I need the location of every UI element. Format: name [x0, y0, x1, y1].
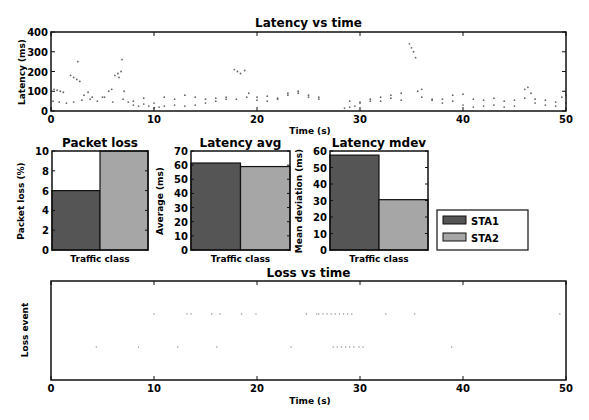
data-point	[442, 102, 444, 104]
data-point	[77, 61, 79, 63]
x-axis-label: Traffic class	[70, 254, 129, 264]
data-point	[87, 91, 89, 93]
bar-sta2	[241, 167, 291, 250]
data-point	[561, 96, 563, 98]
y-tick-label: 0	[41, 106, 48, 117]
loss-event-point	[339, 313, 340, 314]
x-tick-label: 10	[147, 114, 161, 125]
data-point	[409, 43, 411, 45]
data-point	[462, 104, 464, 106]
x-tick-label: 50	[559, 114, 573, 125]
data-point	[266, 100, 268, 102]
x-tick-label: 20	[250, 383, 264, 394]
data-point	[308, 96, 310, 98]
y-tick-label: 100	[27, 86, 48, 97]
y-tick-label: 60	[313, 146, 327, 157]
data-point	[127, 101, 129, 103]
data-point	[81, 99, 83, 101]
y-axis-label: Loss event	[20, 302, 30, 357]
y-axis-label: Average (ms)	[155, 167, 165, 235]
loss-event-point	[255, 313, 256, 314]
loss-event-point	[326, 313, 327, 314]
bar-sta1	[52, 191, 100, 250]
loss-event-point	[333, 346, 334, 347]
loss-event-point	[153, 313, 154, 314]
data-point	[73, 101, 75, 103]
packet_loss-bar-chart: Packet loss0246810Traffic classPacket lo…	[16, 136, 148, 264]
data-point	[122, 98, 124, 100]
x-tick-label: 40	[456, 114, 470, 125]
data-point	[174, 98, 176, 100]
loss-event-point	[341, 346, 342, 347]
data-point	[244, 70, 246, 72]
data-point	[545, 104, 547, 106]
loss-event-point	[96, 346, 97, 347]
y-tick-label: 70	[174, 146, 188, 157]
data-point	[431, 99, 433, 101]
chart-title: Latency mdev	[332, 136, 427, 150]
loss-event-point	[322, 313, 323, 314]
data-point	[524, 88, 526, 90]
y-tick-label: 10	[313, 229, 327, 240]
data-point	[417, 90, 419, 92]
legend-label: STA1	[471, 216, 499, 227]
data-point	[83, 94, 85, 96]
data-point	[503, 100, 505, 102]
bar-sta2	[379, 200, 428, 250]
y-tick-label: 0	[181, 245, 188, 256]
data-point	[66, 102, 68, 104]
data-point	[514, 99, 516, 101]
loss-event-point	[138, 346, 139, 347]
data-point	[120, 71, 122, 73]
data-point	[503, 106, 505, 108]
legend-swatch-sta1	[443, 216, 466, 224]
data-point	[493, 104, 495, 106]
y-axis-label: Mean deviation (ms)	[294, 149, 304, 253]
loss-event-point	[358, 346, 359, 347]
data-point	[91, 96, 93, 98]
data-point	[534, 98, 536, 100]
loss-event-point	[362, 346, 363, 347]
data-point	[194, 96, 196, 98]
loss-event-point	[290, 346, 291, 347]
y-tick-label: 0	[42, 245, 49, 256]
data-point	[514, 105, 516, 107]
loss-event-point	[353, 346, 354, 347]
y-tick-label: 10	[174, 231, 188, 242]
data-point	[452, 94, 454, 96]
data-point	[184, 105, 186, 107]
data-point	[225, 98, 227, 100]
data-point	[415, 57, 417, 59]
data-point	[143, 97, 145, 99]
data-point	[308, 94, 310, 96]
bar-sta2	[100, 151, 148, 250]
data-point	[233, 69, 235, 71]
data-point	[112, 101, 114, 103]
data-point	[318, 98, 320, 100]
data-point	[421, 96, 423, 98]
data-point	[73, 77, 75, 79]
x-axis-label: Time (s)	[289, 396, 330, 406]
x-axis-label: Traffic class	[211, 254, 270, 264]
data-point	[380, 96, 382, 98]
y-axis-label: Packet loss (%)	[16, 162, 26, 239]
latency-vs-time-plot: Latency vs time010203040500100200300400T…	[17, 16, 573, 136]
loss-event-point	[347, 313, 348, 314]
data-point	[266, 95, 268, 97]
data-point	[400, 92, 402, 94]
data-point	[287, 92, 289, 94]
data-point	[246, 96, 248, 98]
data-point	[76, 79, 78, 81]
data-point	[205, 98, 207, 100]
loss-event-point	[345, 346, 346, 347]
data-point	[108, 90, 110, 92]
loss-event-point	[190, 313, 191, 314]
loss-event-point	[351, 313, 352, 314]
data-point	[96, 100, 98, 102]
data-point	[123, 90, 125, 92]
latency_avg-bar-chart: Latency avg010203040506070Traffic classA…	[155, 136, 290, 264]
x-tick-label: 30	[353, 383, 367, 394]
data-point	[163, 105, 165, 107]
data-point	[215, 97, 217, 99]
data-point	[237, 71, 239, 73]
